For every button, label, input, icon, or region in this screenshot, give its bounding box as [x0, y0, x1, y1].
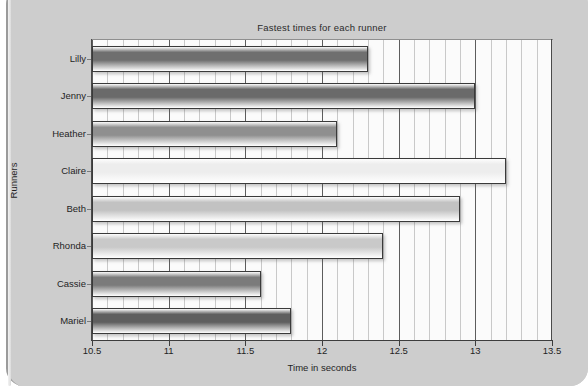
- bar-lilly[interactable]: [92, 46, 368, 72]
- bar-chart: Fastest times for each runner Runners Ti…: [0, 0, 588, 391]
- bar-row: [92, 115, 552, 153]
- bar-row: [92, 190, 552, 228]
- x-axis-title: Time in seconds: [92, 362, 552, 373]
- screenshot-root: Fastest times for each runner Runners Ti…: [0, 0, 588, 391]
- x-axis-label-13: 13: [455, 345, 495, 356]
- y-axis-label-mariel: Mariel: [16, 315, 86, 326]
- bar-jenny[interactable]: [92, 83, 475, 109]
- plot-area: [92, 40, 552, 340]
- y-axis-line: [91, 39, 92, 341]
- bar-claire[interactable]: [92, 158, 506, 184]
- bar-beth[interactable]: [92, 196, 460, 222]
- y-axis-label-rhonda: Rhonda: [16, 240, 86, 251]
- y-axis-label-jenny: Jenny: [16, 90, 86, 101]
- x-axis-label-12: 12: [302, 345, 342, 356]
- bar-mariel[interactable]: [92, 308, 291, 334]
- y-axis-label-cassie: Cassie: [16, 278, 86, 289]
- bar-cassie[interactable]: [92, 271, 261, 297]
- x-axis-label-11-5: 11.5: [225, 345, 265, 356]
- bar-row: [92, 153, 552, 191]
- bar-row: [92, 40, 552, 78]
- axis-top: [91, 39, 553, 40]
- x-axis-label-10-5: 10.5: [72, 345, 112, 356]
- bar-heather[interactable]: [92, 121, 337, 147]
- axis-right: [551, 39, 552, 341]
- x-axis-label-13-5: 13.5: [532, 345, 572, 356]
- bar-series: [92, 40, 552, 340]
- y-axis-label-claire: Claire: [16, 165, 86, 176]
- bar-row: [92, 265, 552, 303]
- bar-rhonda[interactable]: [92, 233, 383, 259]
- y-axis-label-lilly: Lilly: [16, 53, 86, 64]
- bar-row: [92, 303, 552, 341]
- bar-row: [92, 228, 552, 266]
- bar-row: [92, 78, 552, 116]
- y-axis-label-heather: Heather: [16, 128, 86, 139]
- x-axis-label-11: 11: [149, 345, 189, 356]
- x-axis-label-12-5: 12.5: [379, 345, 419, 356]
- chart-title: Fastest times for each runner: [92, 22, 552, 33]
- y-axis-label-beth: Beth: [16, 203, 86, 214]
